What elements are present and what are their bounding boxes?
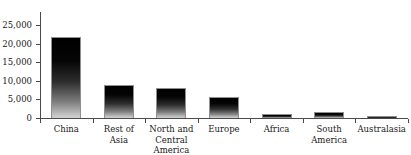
y-axis-tick-label: 25,000 [0,21,32,30]
bar-chart: 05,00010,00015,00020,00025,000ChinaRest … [0,0,411,155]
x-axis-tick [355,119,356,123]
category-label-line: Australasia [355,124,408,135]
y-axis-tick [36,62,41,63]
x-axis-tick [93,119,94,123]
x-axis-category-label: Europe [198,124,251,135]
bar [262,114,292,118]
category-label-line: South [303,124,356,135]
y-axis-tick-label: 20,000 [0,40,32,49]
y-axis-tick-label: 10,000 [0,77,32,86]
x-axis-tick [40,119,41,123]
bar [209,97,239,118]
y-axis-tick-label: 0 [0,114,32,123]
x-axis-tick [145,119,146,123]
y-axis-tick-label: 5,000 [0,95,32,104]
x-axis-category-label: North andCentralAmerica [145,124,198,155]
x-axis-line [40,118,408,119]
category-label-line: Rest of [93,124,146,135]
y-axis-tick [36,25,41,26]
bar [104,85,134,118]
x-axis-tick [303,119,304,123]
x-axis-tick [408,119,409,123]
x-axis-category-label: China [40,124,93,135]
x-axis-category-label: Australasia [355,124,408,135]
plot-area: 05,00010,00015,00020,00025,000ChinaRest … [0,0,411,155]
y-axis-line [40,12,41,119]
category-label-line: China [40,124,93,135]
x-axis-category-label: SouthAmerica [303,124,356,145]
category-label-line: America [303,135,356,146]
y-axis-tick [36,44,41,45]
x-axis-category-label: Rest ofAsia [93,124,146,145]
bar [367,116,397,118]
x-axis-tick [198,119,199,123]
x-axis-tick [250,119,251,123]
category-label-line: Europe [198,124,251,135]
category-label-line: Africa [250,124,303,135]
category-label-line: America [145,145,198,155]
category-label-line: Asia [93,135,146,146]
y-axis-tick [36,99,41,100]
bar [314,112,344,118]
category-label-line: North and [145,124,198,135]
category-label-line: Central [145,135,198,146]
x-axis-category-label: Africa [250,124,303,135]
bar [156,88,186,118]
y-axis-tick-label: 15,000 [0,58,32,67]
y-axis-tick [36,81,41,82]
bar [51,37,81,118]
